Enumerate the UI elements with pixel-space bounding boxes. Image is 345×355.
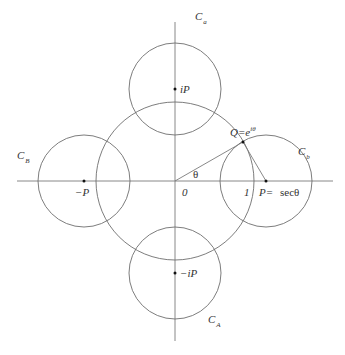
- point-ip: [174, 88, 177, 91]
- label-q: Q=eiθ: [230, 125, 256, 138]
- label-ip: iP: [180, 83, 190, 95]
- point-q: [242, 141, 245, 144]
- segment-oq: [175, 142, 243, 181]
- label-minus-p: −P: [75, 186, 89, 198]
- label-p: P=: [258, 186, 273, 198]
- point-minus-p: [83, 180, 86, 183]
- label-origin: 0: [182, 186, 188, 198]
- label-one: 1: [244, 186, 250, 198]
- point-minus-ip: [174, 272, 177, 275]
- label-c-A: CA: [208, 313, 221, 329]
- segment-qp: [243, 142, 266, 181]
- label-c-B: CB: [17, 149, 30, 165]
- label-c-a: Ca: [195, 10, 207, 26]
- label-sec-theta: secθ: [280, 186, 299, 198]
- point-p: [265, 180, 268, 183]
- label-c-b: Cb: [298, 145, 310, 161]
- label-theta: θ: [193, 168, 198, 180]
- geometry-diagram: Ca Cb CB CA iP −P −iP P= secθ Q=eiθ 0 1 …: [0, 0, 345, 355]
- label-minus-ip: −iP: [180, 267, 197, 279]
